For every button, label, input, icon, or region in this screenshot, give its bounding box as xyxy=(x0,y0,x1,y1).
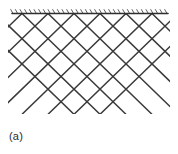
figure-caption-label: (a) xyxy=(9,130,23,143)
lattice-diagram xyxy=(0,0,178,154)
figure-background xyxy=(0,0,178,154)
figure-container: (a) xyxy=(0,0,178,154)
